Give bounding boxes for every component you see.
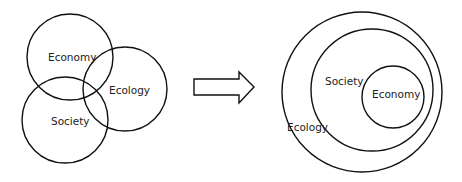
right-society-label: Society	[325, 75, 364, 87]
right-economy-label: Economy	[372, 88, 420, 100]
sustainability-diagram: Economy Ecology Society Society Economy …	[0, 0, 462, 182]
left-economy-label: Economy	[48, 51, 96, 63]
right-ecology-label: Ecology	[287, 121, 328, 133]
left-ecology-label: Ecology	[109, 84, 150, 96]
arrow-right-icon	[194, 72, 254, 103]
left-society-label: Society	[51, 115, 90, 127]
